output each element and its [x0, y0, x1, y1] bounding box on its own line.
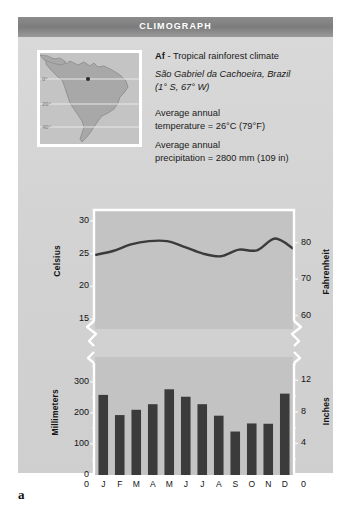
month-label-J-5: J	[182, 479, 190, 489]
location-name: São Gabriel da Cachoeira, Brazil	[155, 68, 325, 81]
tick-zero-left: 0	[65, 479, 89, 489]
tick-fahrenheit-60: 60	[301, 310, 311, 320]
temperature-plot-area	[95, 211, 293, 329]
avg-temperature-line2: temperature = 26°C (79°F)	[155, 120, 325, 133]
map-canvas: 0° 20° 40°	[40, 53, 139, 144]
banner-title: CLIMOGRAPH	[18, 21, 333, 31]
month-label-S-8: S	[231, 479, 239, 489]
map-inset: 0° 20° 40°	[37, 50, 142, 147]
month-label-A-3: A	[149, 479, 157, 489]
month-label-J-0: J	[99, 479, 107, 489]
month-label-M-4: M	[165, 479, 173, 489]
month-label-D-11: D	[281, 479, 289, 489]
location-coordinates: (1° S, 67° W)	[155, 81, 325, 94]
month-label-A-7: A	[215, 479, 223, 489]
temperature-line-series	[95, 211, 293, 329]
month-label-J-6: J	[198, 479, 206, 489]
tick-celsius-15: 15	[65, 313, 89, 323]
tick-celsius-30: 30	[65, 215, 89, 225]
axis-label-fahrenheit: Fahrenheit	[321, 249, 331, 294]
tick-millimeters-200: 200	[65, 407, 89, 417]
tick-inches-4: 4	[301, 437, 306, 447]
climate-code-line: Af - Tropical rainforest climate	[155, 50, 325, 63]
avg-precipitation-line1: Average annual	[155, 139, 325, 152]
tick-celsius-20: 20	[65, 280, 89, 290]
banner: CLIMOGRAPH	[18, 17, 333, 37]
figure-letter: a	[18, 487, 25, 503]
tick-inches-8: 8	[301, 406, 306, 416]
month-label-M-2: M	[132, 479, 140, 489]
tick-celsius-25: 25	[65, 248, 89, 258]
south-america-map-icon	[40, 53, 139, 144]
axis-label-millimeters: Millimeters	[50, 389, 60, 436]
map-lat-label-0: 0°	[42, 76, 48, 82]
map-lat-label-20: 20°	[42, 101, 51, 107]
tick-millimeters-100: 100	[65, 438, 89, 448]
tick-zero-right: 0	[301, 479, 306, 489]
precipitation-plot-area	[95, 357, 293, 475]
tick-millimeters-300: 300	[65, 376, 89, 386]
month-label-O-9: O	[248, 479, 256, 489]
axis-label-inches: Inches	[321, 397, 331, 425]
location-line: São Gabriel da Cachoeira, Brazil (1° S, …	[155, 68, 325, 93]
avg-precipitation-line2: precipitation = 2800 mm (109 in)	[155, 152, 325, 165]
tick-millimeters-0: 0	[65, 469, 89, 479]
month-label-N-10: N	[264, 479, 272, 489]
avg-temperature-line1: Average annual	[155, 107, 325, 120]
precipitation-bar-series	[95, 357, 293, 475]
climate-code: Af	[155, 51, 165, 61]
climograph-card: CLIMOGRAPH 0° 20° 40° Af - Tropical rain…	[18, 17, 333, 473]
tick-fahrenheit-80: 80	[301, 237, 311, 247]
avg-temperature-block: Average annual temperature = 26°C (79°F)	[155, 107, 325, 132]
month-label-F-1: F	[116, 479, 124, 489]
map-lat-label-40: 40°	[42, 124, 51, 130]
info-block: Af - Tropical rainforest climate São Gab…	[155, 50, 325, 164]
tick-inches-12: 12	[301, 374, 311, 384]
axis-label-celsius: Celsius	[52, 245, 62, 277]
avg-precipitation-block: Average annual precipitation = 2800 mm (…	[155, 139, 325, 164]
tick-fahrenheit-70: 70	[301, 273, 311, 283]
climate-code-suffix: - Tropical rainforest climate	[165, 51, 279, 61]
